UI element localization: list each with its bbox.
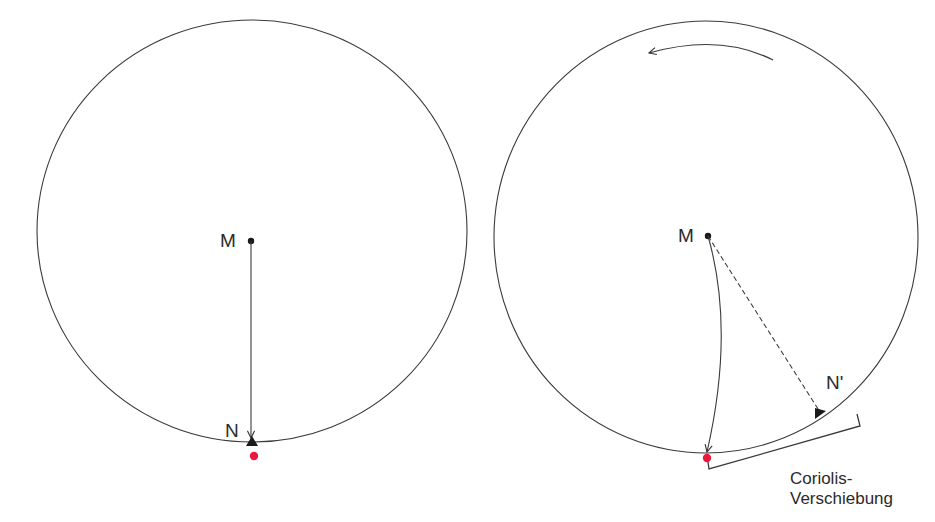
- left-target-triangle-icon: [246, 436, 258, 446]
- coriolis-caption-line2: Verschiebung: [790, 489, 893, 509]
- right-panel: [494, 21, 918, 469]
- left-panel: [37, 20, 467, 460]
- dashed-line-to-n-prime: [708, 236, 820, 412]
- right-red-marker: [703, 454, 711, 462]
- coriolis-diagram: [0, 0, 935, 522]
- left-disk-circle: [37, 20, 467, 442]
- right-label-n-prime: N': [826, 373, 843, 392]
- deflected-path-arrow: [707, 236, 721, 452]
- coriolis-caption: Coriolis- Verschiebung: [790, 469, 893, 509]
- right-label-m: M: [678, 226, 694, 245]
- coriolis-bracket: [708, 414, 860, 469]
- left-label-m: M: [220, 231, 236, 250]
- n-prime-triangle-icon: [815, 408, 826, 419]
- left-label-n: N: [225, 421, 239, 440]
- coriolis-caption-line1: Coriolis-: [790, 469, 893, 489]
- rotation-arrow-icon: [649, 44, 773, 60]
- left-red-marker: [250, 452, 258, 460]
